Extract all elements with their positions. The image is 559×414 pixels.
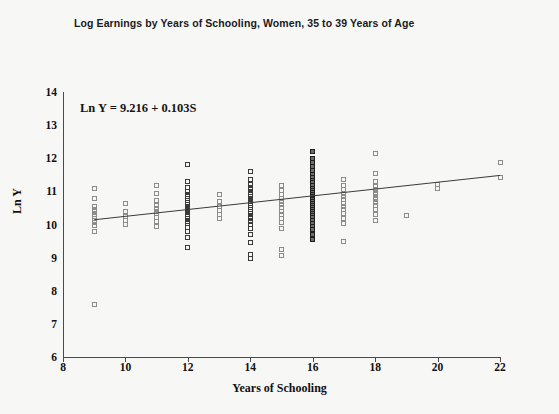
x-tick-label: 22 [488,361,512,373]
y-axis-label: Ln Y [10,188,25,214]
x-tick-label: 10 [113,361,137,373]
x-axis-ticks: 810121416182022 [63,357,501,379]
x-tick-label: 8 [51,361,75,373]
y-tick-label: 13 [35,119,57,131]
y-tick-label: 8 [35,285,57,297]
x-tick-label: 14 [238,361,262,373]
y-tick-label: 12 [35,152,57,164]
x-tick-label: 12 [176,361,200,373]
chart-title: Log Earnings by Years of Schooling, Wome… [74,17,414,29]
x-tick-label: 18 [363,361,387,373]
y-tick-label: 9 [35,252,57,264]
regression-line [63,92,500,357]
x-tick-label: 20 [426,361,450,373]
x-axis-label: Years of Schooling [0,381,559,396]
y-tick-label: 14 [35,86,57,98]
y-tick-label: 11 [35,185,57,197]
y-axis-ticks: 67891011121314 [33,92,57,358]
x-tick-label: 16 [301,361,325,373]
chart-figure: Log Earnings by Years of Schooling, Wome… [0,0,559,414]
plot-area [63,92,500,357]
y-tick-label: 7 [35,318,57,330]
y-tick-label: 10 [35,219,57,231]
